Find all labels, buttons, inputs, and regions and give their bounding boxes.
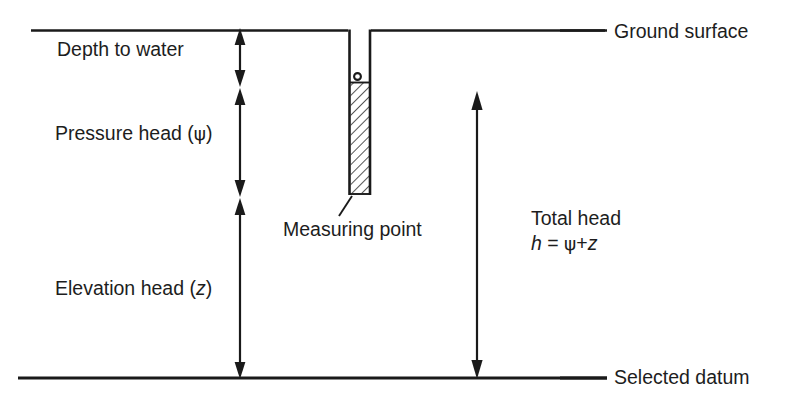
equals-symbol: = [542,232,564,254]
h-symbol: h [531,232,542,254]
label-elevation-head-close: ) [206,277,213,299]
well-screen-hatched [351,82,370,193]
label-selected-datum: Selected datum [614,366,750,389]
label-depth-to-water: Depth to water [57,38,184,61]
psi-symbol-pressure-head: ψ [194,123,206,144]
psi-symbol-total-head: ψ [564,233,576,254]
label-pressure-head-close: ) [206,122,213,144]
water-level-marker-icon [354,73,361,80]
piezometer-well [349,30,371,196]
label-pressure-head-text: Pressure head ( [55,122,194,144]
dim-pressure-head [235,88,246,197]
plus-symbol: + [576,232,587,254]
label-total-head-formula: h = ψ+z [531,232,621,255]
dim-depth-to-water [235,28,246,87]
dim-elevation-head [235,198,246,379]
z-symbol-total-head: z [588,232,598,254]
label-total-head: Total head h = ψ+z [531,207,621,255]
label-pressure-head: Pressure head (ψ) [55,122,212,145]
label-ground-surface: Ground surface [614,20,748,43]
label-measuring-point: Measuring point [283,218,422,241]
dimension-chain-left [235,28,246,379]
hydraulic-head-diagram: Depth to water Pressure head (ψ) Elevati… [0,0,794,407]
label-elevation-head: Elevation head (z) [55,277,212,300]
diagram-canvas [0,0,794,407]
leader-line-measuring-point [339,196,352,216]
z-symbol-elevation-head: z [196,277,206,299]
label-total-head-title: Total head [531,207,621,230]
dim-total-head [471,91,482,379]
label-elevation-head-text: Elevation head ( [55,277,196,299]
